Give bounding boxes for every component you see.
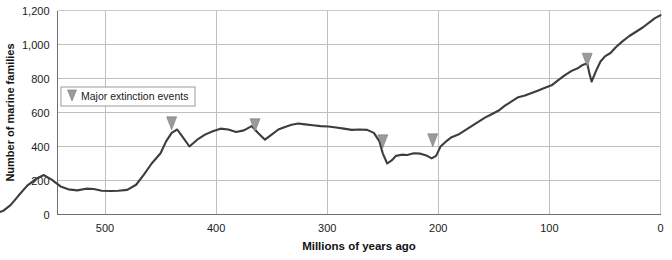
x-axis-title: Millions of years ago: [302, 240, 416, 252]
y-tick-label: 600: [31, 107, 49, 119]
x-tick-labels: 5004003002001000: [96, 222, 664, 234]
x-tick-label: 0: [657, 222, 663, 234]
y-axis-title: Number of marine families: [4, 43, 16, 181]
y-tick-label: 0: [43, 209, 49, 221]
x-tick-label: 400: [207, 222, 225, 234]
x-tick-label: 300: [318, 222, 336, 234]
y-tick-label: 400: [31, 141, 49, 153]
y-tick-label: 800: [31, 73, 49, 85]
marine-families-line: [0, 15, 660, 213]
chart-legend: Major extinction events: [61, 87, 195, 106]
extinction-event-marker: [167, 117, 177, 130]
marine-families-chart: 02004006008001,0001,200 5004003002001000…: [0, 0, 672, 260]
x-tick-label: 500: [96, 222, 114, 234]
x-tick-label: 200: [429, 222, 447, 234]
legend-item-label: Major extinction events: [81, 90, 188, 102]
x-tick-label: 100: [540, 222, 558, 234]
gridlines-group: [58, 11, 661, 215]
chart-svg: 02004006008001,0001,200 5004003002001000…: [0, 0, 672, 260]
y-tick-label: 1,000: [22, 39, 50, 51]
extinction-markers-group: [167, 53, 593, 148]
extinction-event-marker: [428, 134, 438, 147]
y-tick-label: 1,200: [22, 5, 50, 17]
